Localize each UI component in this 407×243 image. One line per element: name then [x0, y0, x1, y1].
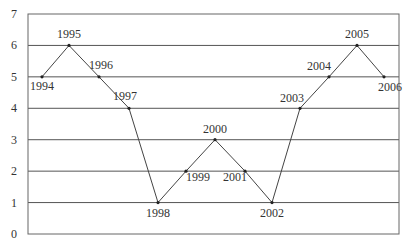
y-tick-label: 7: [11, 7, 17, 21]
data-point: [213, 138, 216, 141]
point-label: 2003: [280, 91, 304, 105]
y-tick-label: 0: [11, 227, 17, 241]
y-axis-tick-labels: 01234567: [11, 7, 17, 241]
y-tick-label: 1: [11, 196, 17, 210]
data-point: [67, 44, 70, 47]
data-point: [382, 75, 385, 78]
point-label: 1999: [186, 170, 210, 184]
point-label: 2004: [307, 59, 331, 73]
point-label: 1994: [30, 79, 54, 93]
line-chart: 01234567 1994199519961997199819992000200…: [0, 0, 407, 243]
y-tick-label: 2: [11, 164, 17, 178]
point-label: 2006: [378, 80, 402, 94]
data-point: [97, 75, 100, 78]
y-tick-label: 5: [11, 70, 17, 84]
point-label: 2000: [203, 122, 227, 136]
data-point: [156, 201, 159, 204]
point-labels: 1994199519961997199819992000200120022003…: [30, 27, 402, 219]
data-point: [327, 75, 330, 78]
data-point: [270, 201, 273, 204]
point-label: 1998: [146, 206, 170, 220]
point-label: 1996: [89, 58, 113, 72]
y-tick-label: 3: [11, 133, 17, 147]
point-label: 1995: [57, 27, 81, 41]
data-point: [355, 44, 358, 47]
y-tick-label: 4: [11, 101, 17, 115]
point-label: 2005: [345, 27, 369, 41]
data-point: [298, 107, 301, 110]
point-label: 2001: [223, 170, 247, 184]
y-tick-label: 6: [11, 38, 17, 52]
data-point: [127, 107, 130, 110]
point-label: 2002: [260, 206, 284, 220]
point-label: 1997: [113, 89, 137, 103]
